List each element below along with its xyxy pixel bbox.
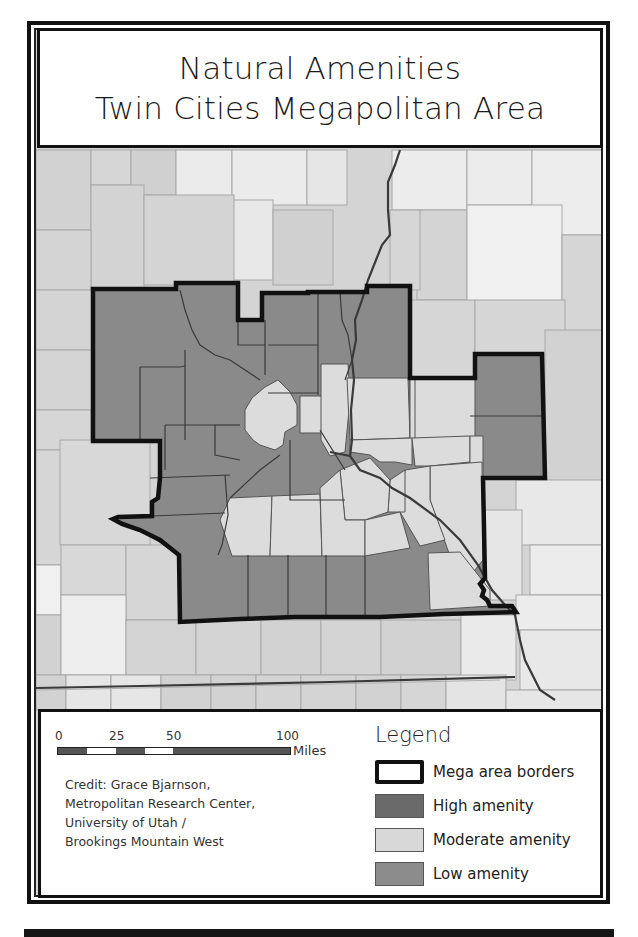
map-title: Natural Amenities — [179, 48, 461, 88]
scale-tick-25: 25 — [109, 729, 124, 743]
map-title-box: Natural Amenities Twin Cities Megapolita… — [37, 28, 603, 148]
legend-label: High amenity — [433, 797, 534, 815]
bottom-bar — [24, 929, 614, 937]
scale-segment — [116, 748, 145, 754]
credit-line: Credit: Grace Bjarnson, — [65, 775, 255, 794]
legend-label: Mega area borders — [433, 763, 574, 781]
credit-text: Credit: Grace Bjarnson, Metropolitan Res… — [65, 775, 255, 851]
legend-item-mega-border: Mega area borders — [375, 760, 574, 784]
scale-segment — [145, 748, 173, 754]
legend-title: Legend — [375, 723, 451, 747]
legend-item-moderate: Moderate amenity — [375, 828, 571, 852]
legend-item-low: Low amenity — [375, 862, 529, 886]
scale-segment — [173, 748, 290, 754]
scale-segment — [58, 748, 87, 754]
legend-swatch-high — [375, 794, 424, 818]
map-subtitle: Twin Cities Megapolitan Area — [95, 88, 545, 128]
scale-tick-50: 50 — [166, 729, 181, 743]
legend-swatch-border — [375, 760, 424, 784]
scale-segment — [87, 748, 116, 754]
scale-bar-graphic — [57, 747, 291, 755]
credit-line: Metropolitan Research Center, — [65, 794, 255, 813]
legend-label: Low amenity — [433, 865, 529, 883]
legend-label: Moderate amenity — [433, 831, 571, 849]
scale-unit: Miles — [293, 743, 326, 758]
legend-item-high: High amenity — [375, 794, 534, 818]
credit-line: University of Utah / — [65, 813, 255, 832]
scale-tick-100: 100 — [276, 729, 299, 743]
credit-line: Brookings Mountain West — [65, 832, 255, 851]
legend-swatch-moderate — [375, 828, 424, 852]
scale-tick-0: 0 — [55, 729, 63, 743]
legend-swatch-low — [375, 862, 424, 886]
